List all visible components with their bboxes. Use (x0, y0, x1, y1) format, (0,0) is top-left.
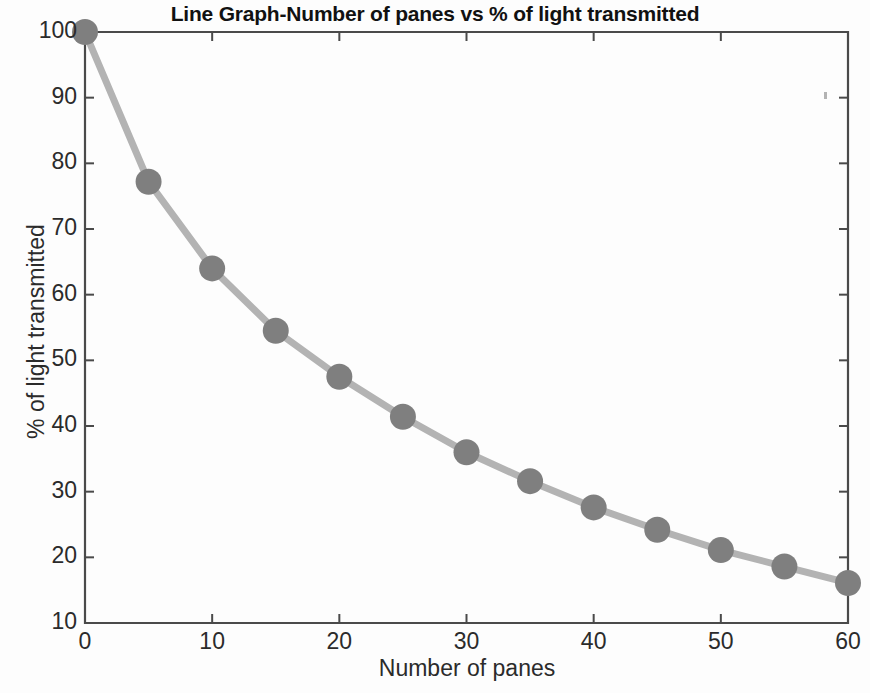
x-tick-label: 10 (182, 628, 242, 655)
x-tick-label: 20 (309, 628, 369, 655)
data-point-marker (454, 439, 480, 465)
y-tick-label: 30 (19, 477, 77, 504)
x-tick-label: 50 (691, 628, 751, 655)
chart-plot-svg (0, 0, 870, 693)
y-tick-label: 80 (19, 148, 77, 175)
data-point-marker (708, 537, 734, 563)
y-tick-label: 20 (19, 542, 77, 569)
y-tick-label: 90 (19, 83, 77, 110)
x-axis-label: Number of panes (85, 655, 849, 682)
x-tick-label: 0 (55, 628, 115, 655)
y-tick-label: 50 (19, 345, 77, 372)
data-point-marker (644, 517, 670, 543)
data-point-marker (771, 554, 797, 580)
x-tick-label: 30 (437, 628, 497, 655)
chart-figure: Line Graph-Number of panes vs % of light… (0, 0, 870, 693)
y-tick-label: 70 (19, 214, 77, 241)
data-point-marker (136, 169, 162, 195)
y-tick-label: 60 (19, 280, 77, 307)
scan-artifact-speck (824, 92, 827, 99)
data-point-marker (263, 318, 289, 344)
x-tick-label: 40 (564, 628, 624, 655)
data-point-marker (199, 255, 225, 281)
data-point-marker (326, 364, 352, 390)
axis-frame (85, 32, 848, 623)
y-tick-label: 100 (19, 17, 77, 44)
data-point-marker (517, 468, 543, 494)
data-point-marker (390, 404, 416, 430)
y-tick-label: 40 (19, 411, 77, 438)
x-tick-label: 60 (818, 628, 870, 655)
data-point-marker (581, 494, 607, 520)
y-axis-label: % of light transmitted (23, 162, 50, 502)
data-series-line (85, 32, 848, 583)
data-point-marker (835, 570, 861, 596)
